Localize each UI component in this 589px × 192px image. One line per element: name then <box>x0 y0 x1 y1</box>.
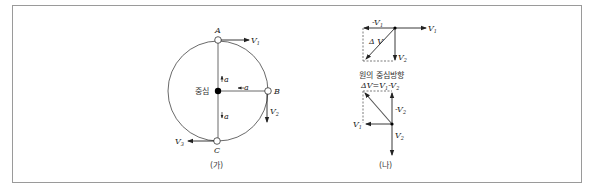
accel-label-bottom: a <box>224 112 229 121</box>
origin-dot-bottom <box>390 122 393 125</box>
center-direction-caption: 원의 중심방향 <box>359 70 405 80</box>
vector-v1-top-label: V1 <box>428 24 437 34</box>
accel-label-top: a <box>224 75 229 84</box>
vector-delta-v-top-label: Δ V <box>368 37 384 46</box>
vector-delta-v-bottom <box>365 93 392 124</box>
velocity-label-a: V1 <box>251 36 260 46</box>
point-b-marker <box>265 88 272 95</box>
panel-a-caption: (가) <box>210 161 223 170</box>
point-a-label: A <box>214 26 221 35</box>
vector-neg-v2-label: -V2 <box>395 105 406 115</box>
vector-neg-v1-label: -V1 <box>372 18 383 28</box>
panel-b: V1 -V1 V2 Δ V 원의 중심방향 ΔV=V1-V2 V1 -V2 V2… <box>353 18 437 170</box>
accel-label-right: a <box>244 83 249 92</box>
delta-v-equation: ΔV=V1-V2 <box>360 81 399 91</box>
vector-v2-top-label: V2 <box>398 53 407 63</box>
center-dot <box>215 88 221 94</box>
origin-dot-top <box>393 26 396 29</box>
velocity-label-b: V2 <box>270 107 279 117</box>
center-label: 중심 <box>195 86 209 96</box>
vector-v1-bottom-label: V1 <box>353 120 362 130</box>
point-a-marker <box>215 37 222 44</box>
panel-a: 중심 A B C V1 V2 V3 a a a (가) <box>168 26 280 170</box>
point-c-marker <box>214 138 221 145</box>
point-b-label: B <box>273 87 280 96</box>
diagram-canvas: 중심 A B C V1 V2 V3 a a a (가) V1 -V1 V <box>0 0 589 192</box>
vector-v2-bottom-label: V2 <box>395 131 404 141</box>
point-c-label: C <box>214 146 220 155</box>
panel-b-caption: (나) <box>379 161 392 170</box>
velocity-label-c: V3 <box>175 137 184 147</box>
